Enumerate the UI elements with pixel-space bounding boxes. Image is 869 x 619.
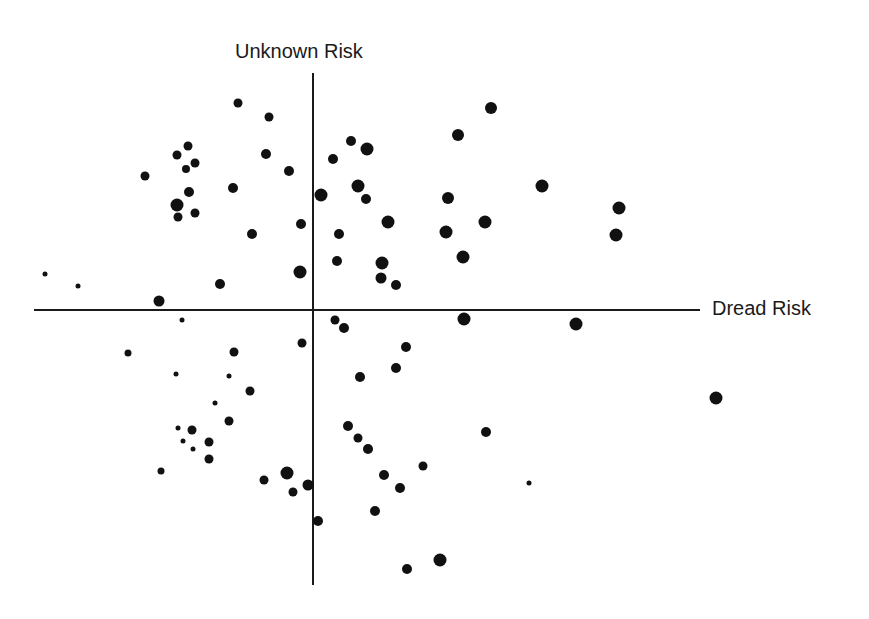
data-point: [205, 455, 214, 464]
data-point: [570, 318, 583, 331]
data-point: [228, 183, 238, 193]
data-point: [174, 372, 179, 377]
data-point: [355, 372, 365, 382]
data-point: [174, 213, 183, 222]
data-point: [328, 154, 338, 164]
data-point: [154, 296, 165, 307]
data-point: [141, 172, 150, 181]
data-point: [346, 136, 356, 146]
data-point: [419, 462, 428, 471]
data-point: [391, 280, 401, 290]
data-point: [188, 426, 197, 435]
data-point: [294, 266, 307, 279]
data-point: [442, 192, 454, 204]
data-point: [246, 387, 255, 396]
data-point: [313, 516, 323, 526]
data-point: [230, 348, 239, 357]
data-point: [343, 421, 353, 431]
data-point: [213, 401, 218, 406]
data-point: [180, 318, 185, 323]
data-point: [261, 149, 271, 159]
data-point: [434, 554, 447, 567]
data-point: [215, 279, 225, 289]
data-point: [171, 199, 184, 212]
data-point: [289, 488, 298, 497]
data-point: [281, 467, 294, 480]
data-point: [536, 180, 549, 193]
data-point: [382, 216, 395, 229]
data-point: [610, 229, 623, 242]
data-point: [284, 166, 294, 176]
data-point: [361, 143, 374, 156]
data-point: [395, 483, 405, 493]
data-point: [402, 564, 412, 574]
data-point: [479, 216, 492, 229]
data-point: [370, 506, 380, 516]
data-point: [43, 272, 48, 277]
data-point: [191, 209, 200, 218]
data-point: [298, 339, 307, 348]
data-point: [458, 313, 471, 326]
data-point: [265, 113, 274, 122]
data-point: [376, 257, 389, 270]
data-point: [173, 151, 182, 160]
y-axis-label: Unknown Risk: [235, 40, 363, 63]
data-point: [181, 439, 186, 444]
data-point: [710, 392, 723, 405]
data-point: [331, 316, 340, 325]
data-point: [452, 129, 464, 141]
data-point: [379, 470, 389, 480]
data-point: [376, 273, 387, 284]
data-point: [440, 226, 453, 239]
data-point: [613, 202, 626, 215]
data-point: [361, 194, 371, 204]
data-point: [401, 342, 411, 352]
data-point: [457, 251, 470, 264]
data-point: [225, 417, 234, 426]
data-point: [485, 102, 497, 114]
data-point: [391, 363, 401, 373]
data-point: [352, 180, 365, 193]
x-axis-label: Dread Risk: [712, 297, 811, 320]
data-point: [176, 426, 181, 431]
data-point: [76, 284, 81, 289]
data-point: [205, 438, 214, 447]
data-point: [339, 323, 349, 333]
data-point: [182, 165, 190, 173]
data-point: [354, 434, 363, 443]
data-point: [247, 229, 257, 239]
data-point: [481, 427, 491, 437]
data-point: [184, 187, 194, 197]
data-point: [332, 256, 342, 266]
data-point: [158, 468, 165, 475]
data-point: [191, 159, 200, 168]
data-point: [125, 350, 132, 357]
data-point: [315, 189, 328, 202]
data-point: [191, 447, 196, 452]
data-point: [227, 374, 232, 379]
data-point: [527, 481, 532, 486]
data-point: [296, 219, 306, 229]
data-point: [363, 444, 373, 454]
data-point: [334, 229, 344, 239]
data-point: [303, 480, 314, 491]
data-point: [260, 476, 269, 485]
data-point: [234, 99, 243, 108]
data-points: [43, 99, 723, 575]
data-point: [184, 142, 193, 151]
